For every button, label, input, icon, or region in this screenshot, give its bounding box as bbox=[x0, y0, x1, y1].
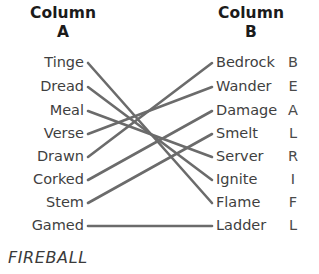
matching-exercise: Column A Column B TingeDreadMealVerseDra… bbox=[0, 0, 319, 274]
column-b-letter: L bbox=[278, 125, 308, 141]
match-line bbox=[88, 63, 212, 203]
match-line bbox=[88, 111, 212, 157]
column-b-heading: Column B bbox=[196, 4, 306, 42]
match-line bbox=[88, 111, 212, 180]
column-b-item[interactable]: Bedrock bbox=[216, 54, 275, 70]
answer-text: FIREBALL bbox=[8, 248, 88, 267]
match-line bbox=[88, 134, 212, 203]
match-line bbox=[88, 87, 212, 134]
column-a-item[interactable]: Verse bbox=[0, 125, 84, 141]
column-b-letter: B bbox=[278, 54, 308, 70]
column-b-letter: F bbox=[278, 194, 308, 210]
column-b-item[interactable]: Wander bbox=[216, 78, 272, 94]
column-b-heading-line2: B bbox=[196, 23, 306, 42]
column-b-letter: L bbox=[278, 217, 308, 233]
column-a-item[interactable]: Gamed bbox=[0, 217, 84, 233]
column-a-item[interactable]: Corked bbox=[0, 171, 84, 187]
column-b-heading-line1: Column bbox=[196, 4, 306, 23]
column-b-item[interactable]: Smelt bbox=[216, 125, 258, 141]
column-b-letter: R bbox=[278, 148, 308, 164]
column-b-item[interactable]: Flame bbox=[216, 194, 260, 210]
column-a-item[interactable]: Dread bbox=[0, 78, 84, 94]
column-b-item[interactable]: Server bbox=[216, 148, 264, 164]
column-b-item[interactable]: Ignite bbox=[216, 171, 257, 187]
column-b-letter: I bbox=[278, 171, 308, 187]
column-a-item[interactable]: Meal bbox=[0, 102, 84, 118]
column-a-heading-line1: Column bbox=[8, 4, 118, 23]
column-a-heading: Column A bbox=[8, 4, 118, 42]
column-b-item[interactable]: Damage bbox=[216, 102, 277, 118]
column-b-letter: A bbox=[278, 102, 308, 118]
column-a-item[interactable]: Tinge bbox=[0, 54, 84, 70]
match-line bbox=[88, 63, 212, 157]
column-a-item[interactable]: Drawn bbox=[0, 148, 84, 164]
column-a-heading-line2: A bbox=[8, 23, 118, 42]
column-b-item[interactable]: Ladder bbox=[216, 217, 266, 233]
match-line bbox=[88, 87, 212, 180]
column-a-item[interactable]: Stem bbox=[0, 194, 84, 210]
column-b-letter: E bbox=[278, 78, 308, 94]
